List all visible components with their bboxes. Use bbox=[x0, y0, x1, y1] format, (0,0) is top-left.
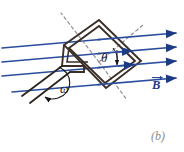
magnetic-field-vector-label: B bbox=[152, 79, 160, 92]
field-line-2-back bbox=[2, 54, 100, 63]
field-line-1-back bbox=[2, 40, 100, 49]
angular-velocity-omega-label: ω bbox=[60, 83, 68, 95]
lead-wire-top bbox=[22, 66, 62, 96]
angle-theta-label: θ bbox=[101, 51, 107, 64]
field-mid-arrow-3 bbox=[118, 65, 134, 66]
field-line-4-back bbox=[12, 85, 100, 93]
field-mid-arrow-2 bbox=[118, 51, 132, 52]
vector-arrow-icon bbox=[152, 75, 163, 80]
theta-angle-indicator bbox=[113, 48, 117, 65]
field-line-3 bbox=[98, 61, 176, 68]
panel-label: (b) bbox=[151, 130, 165, 142]
magnetic-field-vector-letter: B bbox=[152, 78, 160, 92]
field-line-2 bbox=[98, 47, 176, 54]
physics-figure-rotating-coil: θ ω B (b) bbox=[0, 0, 184, 152]
